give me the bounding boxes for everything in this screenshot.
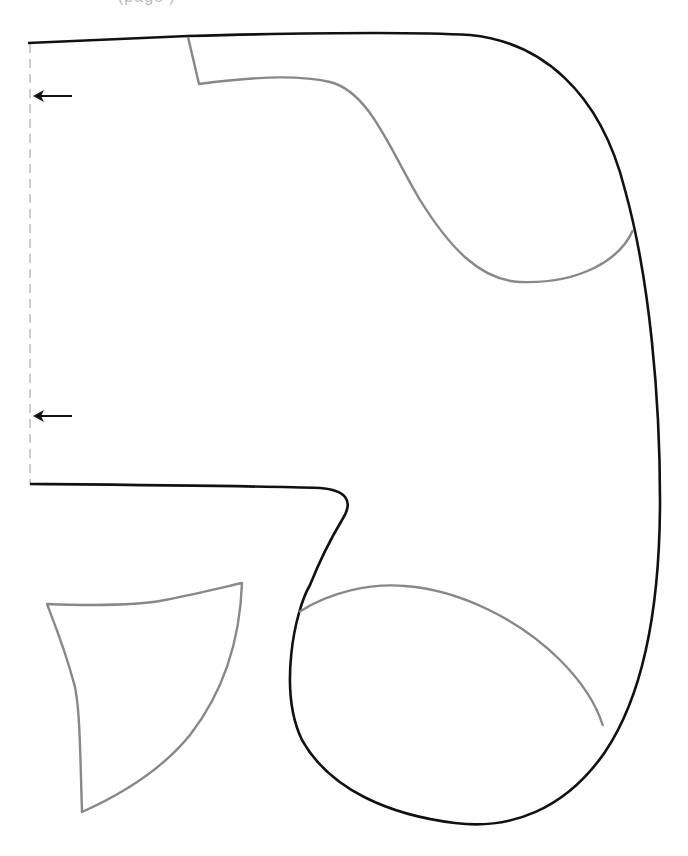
- separate-gusset-piece: [47, 583, 242, 812]
- upper-inner-seam: [188, 37, 633, 282]
- fold-arrow-top-icon: [33, 90, 72, 102]
- lower-inner-seam: [299, 585, 603, 726]
- main-body-outline: [28, 33, 660, 824]
- pattern-diagram: [0, 0, 688, 856]
- fold-arrow-bottom-icon: [33, 410, 72, 422]
